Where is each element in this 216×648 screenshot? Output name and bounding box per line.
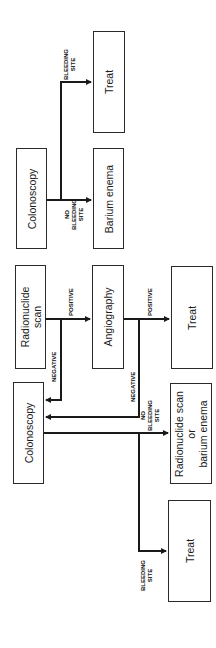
edge-label-positive-radionuclide: POSITIVE	[68, 288, 75, 316]
node-label: Colonoscopy	[23, 403, 35, 464]
node-label: Radionuclide scan or barium enema	[173, 391, 209, 477]
edge-label-no-bleeding-site-top: NO BLEEDING SITE	[64, 199, 85, 230]
node-label: Radionuclide scan	[19, 287, 43, 348]
node-colonoscopy-1: Colonoscopy	[13, 382, 44, 484]
node-radionuclide-scan: Radionuclide scan	[15, 265, 46, 369]
node-treat-after-colonoscopy-2: Treat	[93, 31, 125, 133]
node-label: Treat	[186, 305, 198, 329]
node-label: Angiography	[102, 288, 114, 347]
node-label: Treat	[184, 539, 196, 563]
node-label: Colonoscopy	[26, 168, 38, 229]
node-treat-after-angiography: Treat	[171, 266, 213, 369]
node-barium-enema: Barium enema	[93, 148, 124, 249]
edge-label-bleeding-site-bottom: BLEEDING SITE	[140, 560, 154, 591]
flowchart: Treat Colonoscopy Barium enema Radionucl…	[0, 0, 216, 648]
node-angiography: Angiography	[92, 265, 124, 369]
edge-label-negative-angiography: NEGATIVE	[130, 372, 137, 402]
node-treat-after-colonoscopy-1: Treat	[168, 500, 211, 602]
node-label: Treat	[103, 70, 115, 94]
edge-label-no-bleeding-site-middle: NO BLEEDING SITE	[140, 400, 161, 431]
node-label: Barium enema	[103, 164, 115, 232]
edge-label-bleeding-site-top: BLEEDING SITE	[63, 49, 77, 80]
edge-label-positive-angiography: POSITIVE	[147, 288, 154, 316]
edge-label-negative-radionuclide: NEGATIVE	[51, 352, 58, 382]
node-colonoscopy-2: Colonoscopy	[16, 148, 47, 249]
node-radionuclide-or-barium: Radionuclide scan or barium enema	[170, 383, 212, 484]
